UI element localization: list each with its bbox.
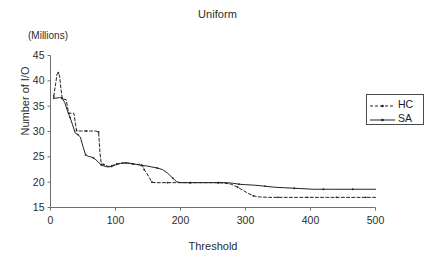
legend-item-sa: SA bbox=[367, 110, 425, 125]
y-tick-30: 30 bbox=[33, 125, 45, 137]
uniform-line-chart: Uniform (Millions) Number of I/O Thresho… bbox=[0, 0, 435, 266]
data-point bbox=[264, 185, 266, 187]
data-point bbox=[172, 177, 174, 179]
data-point bbox=[277, 196, 279, 198]
data-point bbox=[125, 162, 127, 164]
data-point bbox=[237, 186, 239, 188]
data-point bbox=[189, 182, 191, 184]
data-point bbox=[352, 188, 354, 190]
data-point bbox=[151, 181, 153, 183]
data-series-group bbox=[53, 72, 376, 198]
series-sa bbox=[53, 97, 376, 190]
series-line-sa bbox=[54, 98, 376, 190]
data-point bbox=[85, 154, 87, 156]
x-tick-300: 300 bbox=[237, 214, 255, 226]
x-tick-100: 100 bbox=[107, 214, 125, 226]
legend-label-sa: SA bbox=[398, 112, 412, 124]
data-point bbox=[53, 97, 55, 99]
data-point bbox=[217, 182, 219, 184]
data-point bbox=[111, 166, 113, 168]
x-tick-500: 500 bbox=[367, 214, 385, 226]
data-point bbox=[98, 131, 100, 133]
data-point bbox=[61, 97, 63, 99]
legend-swatch-dashed-icon bbox=[369, 98, 396, 110]
data-point bbox=[77, 134, 79, 136]
y-tick-20: 20 bbox=[33, 176, 45, 188]
data-point bbox=[143, 169, 145, 171]
y-tick-40: 40 bbox=[33, 74, 45, 86]
legend-swatch-solid-icon bbox=[369, 112, 396, 124]
y-tick-35: 35 bbox=[33, 100, 45, 112]
data-point bbox=[293, 187, 295, 189]
series-line-hc bbox=[54, 73, 376, 198]
axis-tick-labels: 152025303540450100200300400500 bbox=[33, 49, 385, 225]
series-hc bbox=[53, 72, 376, 198]
data-point bbox=[57, 72, 59, 74]
data-point bbox=[76, 130, 78, 132]
data-point bbox=[69, 116, 71, 118]
data-point bbox=[93, 157, 95, 159]
data-point bbox=[336, 196, 338, 198]
data-point bbox=[100, 164, 102, 166]
data-point bbox=[323, 188, 325, 190]
plot-area: 152025303540450100200300400500 bbox=[0, 0, 435, 266]
legend-item-hc: HC bbox=[367, 96, 425, 111]
x-tick-0: 0 bbox=[48, 214, 54, 226]
data-point bbox=[238, 183, 240, 185]
data-point bbox=[252, 195, 254, 197]
y-tick-45: 45 bbox=[33, 49, 45, 61]
data-point bbox=[141, 165, 143, 167]
data-point bbox=[103, 164, 105, 166]
data-point bbox=[85, 130, 87, 132]
data-point bbox=[306, 196, 308, 198]
chart-legend: HC SA bbox=[366, 94, 424, 125]
x-tick-400: 400 bbox=[302, 214, 320, 226]
y-tick-15: 15 bbox=[33, 201, 45, 213]
data-point bbox=[53, 95, 55, 97]
data-point bbox=[167, 182, 169, 184]
legend-label-hc: HC bbox=[398, 98, 413, 110]
x-tick-200: 200 bbox=[172, 214, 190, 226]
y-tick-25: 25 bbox=[33, 150, 45, 162]
data-point bbox=[365, 196, 367, 198]
data-point bbox=[156, 167, 158, 169]
